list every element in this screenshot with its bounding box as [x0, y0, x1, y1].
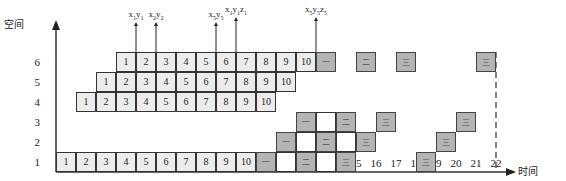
task-cell: 3 [136, 72, 156, 92]
task-cell-label: 9 [224, 156, 229, 167]
task-cell-label: 4 [124, 156, 129, 167]
task-cell-label: 4 [164, 76, 169, 87]
event-annotation: x1y1z1 [225, 4, 247, 16]
stage-cell: 二 [336, 112, 356, 132]
task-cell: 6 [176, 92, 196, 112]
task-cell-label: 6 [164, 156, 169, 167]
stage-cell: 三 [436, 132, 456, 152]
task-cell-label: 4 [184, 56, 189, 67]
stage-cell: 三 [476, 52, 496, 72]
stage-cell: 二 [316, 132, 336, 152]
y-tick-label: 6 [26, 56, 40, 68]
stage-cell-label: 三 [362, 138, 370, 147]
stage-cell-label: 一 [302, 118, 310, 127]
task-cell: 3 [116, 92, 136, 112]
task-cell-label: 2 [144, 56, 149, 67]
task-cell-label: 3 [124, 96, 129, 107]
task-cell: 7 [196, 92, 216, 112]
stage-cell-label: 一 [262, 158, 270, 167]
task-cell-label: 8 [204, 156, 209, 167]
task-cell: 10 [276, 72, 296, 92]
stage-cell-label: 三 [342, 158, 350, 167]
task-cell-label: 3 [104, 156, 109, 167]
y-axis-arrow-icon [52, 20, 60, 30]
y-axis-title: 空间 [4, 16, 24, 31]
stage-cell-label: 三 [442, 138, 450, 147]
stage-cell: 一 [256, 152, 276, 172]
stage-cell: 三 [396, 52, 416, 72]
task-cell-label: 1 [84, 96, 89, 107]
stage-cell-label: 二 [322, 138, 330, 147]
task-cell-label: 5 [184, 76, 189, 87]
task-cell: 7 [236, 52, 256, 72]
task-cell: 3 [156, 52, 176, 72]
task-cell-label: 2 [84, 156, 89, 167]
task-cell-label: 7 [224, 76, 229, 87]
stage-cell: 三 [416, 152, 436, 172]
x-axis-arrow-icon [506, 168, 516, 176]
task-cell: 5 [176, 72, 196, 92]
task-cell: 10 [256, 92, 276, 112]
stage-cell-label: 一 [282, 138, 290, 147]
task-cell: 9 [216, 152, 236, 172]
task-cell: 9 [236, 92, 256, 112]
stage-cell-label: 三 [422, 158, 430, 167]
task-cell-label: 7 [204, 96, 209, 107]
empty-cell [276, 152, 296, 172]
task-cell: 6 [216, 52, 236, 72]
task-cell: 8 [236, 72, 256, 92]
task-cell: 7 [216, 72, 236, 92]
stage-cell-label: 二 [342, 118, 350, 127]
task-cell: 5 [136, 152, 156, 172]
empty-cell [296, 132, 316, 152]
empty-cell [316, 112, 336, 132]
task-cell: 9 [256, 72, 276, 92]
task-cell-label: 1 [104, 76, 109, 87]
task-cell: 2 [116, 72, 136, 92]
task-cell: 1 [76, 92, 96, 112]
stage-cell: 一 [276, 132, 296, 152]
task-cell-label: 1 [124, 56, 129, 67]
task-cell: 4 [116, 152, 136, 172]
empty-cell [316, 152, 336, 172]
task-cell-label: 7 [244, 56, 249, 67]
task-cell-label: 10 [301, 56, 311, 67]
task-cell: 7 [176, 152, 196, 172]
stage-cell: 一 [316, 52, 336, 72]
task-cell-label: 6 [224, 56, 229, 67]
task-cell: 8 [196, 152, 216, 172]
task-cell-label: 7 [184, 156, 189, 167]
task-cell-label: 6 [184, 96, 189, 107]
stage-cell-label: 二 [362, 58, 370, 67]
stage-cell-label: 三 [462, 118, 470, 127]
task-cell: 2 [96, 92, 116, 112]
task-cell-label: 2 [104, 96, 109, 107]
task-cell-label: 2 [124, 76, 129, 87]
stage-cell: 一 [296, 112, 316, 132]
stage-cell: 三 [376, 112, 396, 132]
task-cell-label: 9 [284, 56, 289, 67]
task-cell-label: 8 [244, 76, 249, 87]
stage-cell-label: 三 [382, 118, 390, 127]
task-cell-label: 10 [261, 96, 271, 107]
y-tick-label: 5 [26, 76, 40, 88]
stage-cell: 三 [456, 112, 476, 132]
event-annotation: x2y2 [149, 9, 164, 21]
task-cell-label: 8 [264, 56, 269, 67]
task-cell-label: 3 [144, 76, 149, 87]
task-cell-label: 10 [241, 156, 251, 167]
x-axis-title: 时间 [518, 163, 538, 178]
x-tick-label: 22 [484, 157, 508, 169]
task-cell: 6 [196, 72, 216, 92]
task-cell: 8 [216, 92, 236, 112]
task-cell: 9 [276, 52, 296, 72]
event-annotation: x1y1 [129, 9, 144, 21]
task-cell: 1 [96, 72, 116, 92]
task-cell-label: 5 [164, 96, 169, 107]
event-annotation: x5y5 [209, 9, 224, 21]
task-cell: 5 [196, 52, 216, 72]
task-cell: 2 [76, 152, 96, 172]
task-cell: 10 [296, 52, 316, 72]
task-cell-label: 6 [204, 76, 209, 87]
stage-cell-label: 二 [302, 158, 310, 167]
